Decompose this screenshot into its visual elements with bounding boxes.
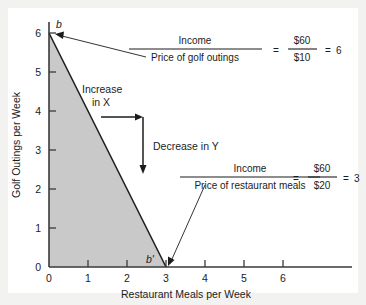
formula2-numerator: Income — [234, 163, 267, 174]
formula2-result: 3 — [354, 173, 360, 184]
increase-in-x-label-line2: in X — [92, 96, 110, 108]
y-tick-label-6: 6 — [35, 27, 41, 39]
y-tick-label-1: 1 — [35, 222, 41, 234]
leader-line-to-b — [62, 36, 146, 57]
leader-line-to-b-prime — [172, 185, 205, 259]
y-tick-label-4: 4 — [35, 105, 41, 117]
formula1-result: 6 — [336, 45, 342, 56]
leader-arrowhead-to-b-prime — [168, 257, 175, 267]
formula1-value-numerator: $60 — [294, 35, 311, 46]
x-tick-label-2: 2 — [124, 272, 130, 284]
x-tick-label-5: 5 — [241, 272, 247, 284]
x-tick-label-0: 0 — [46, 272, 52, 284]
y-tick-label-0: 0 — [35, 261, 41, 273]
increase-in-x-label-line1: Increase — [82, 83, 122, 95]
decrease-in-y-arrowhead — [140, 165, 147, 174]
x-tick-label-6: 6 — [280, 272, 286, 284]
formula2-value-numerator: $60 — [314, 163, 331, 174]
x-tick-label-1: 1 — [85, 272, 91, 284]
formula2-value-denominator: $20 — [314, 180, 331, 191]
formula-horizontal-intercept: Income Price of restaurant meals = $60 $… — [180, 163, 360, 191]
y-tick-label-3: 3 — [35, 144, 41, 156]
decrease-in-y-label: Decrease in Y — [153, 140, 219, 152]
x-axis-title: Restaurant Meals per Week — [121, 288, 252, 300]
y-axis-title: Golf Outings per Week — [10, 91, 22, 198]
y-tick-label-2: 2 — [35, 183, 41, 195]
x-tick-label-3: 3 — [163, 272, 169, 284]
formula1-numerator: Income — [179, 35, 212, 46]
chart-canvas: 6 5 4 3 2 1 0 0 1 2 3 4 5 6 Restaurant M… — [0, 0, 366, 305]
point-label-b-prime: b' — [146, 253, 155, 265]
y-tick-label-5: 5 — [35, 66, 41, 78]
point-label-b: b — [56, 18, 62, 30]
formula1-value-denominator: $10 — [294, 52, 311, 63]
formula-vertical-intercept: Income Price of golf outings = $60 $10 =… — [129, 35, 342, 63]
increase-in-x-arrowhead — [135, 114, 143, 121]
formula2-equals2: = — [343, 173, 349, 184]
formula2-equals: = — [293, 173, 299, 184]
formula2-denominator: Price of restaurant meals — [194, 180, 305, 191]
budget-constraint-figure: 6 5 4 3 2 1 0 0 1 2 3 4 5 6 Restaurant M… — [0, 0, 366, 305]
formula1-denominator: Price of golf outings — [151, 52, 239, 63]
leader-arrowhead-to-b — [55, 32, 64, 40]
x-tick-label-4: 4 — [202, 272, 208, 284]
formula1-equals2: = — [325, 45, 331, 56]
formula1-equals: = — [273, 45, 279, 56]
